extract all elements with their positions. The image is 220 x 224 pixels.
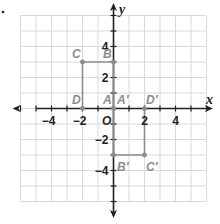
- x-tick-label: 2: [141, 114, 148, 128]
- point-label: A′: [116, 93, 130, 107]
- point-label: C: [72, 47, 81, 61]
- point-label: B′: [117, 160, 130, 174]
- origin-label: O: [102, 114, 112, 128]
- problem-marker-dot: [2, 11, 5, 14]
- figure-image-vertex-point: [111, 106, 116, 111]
- coordinate-plane: yxO−4−22442−2−4ABCDA′B′C′D′: [0, 0, 220, 224]
- figure-original-vertex-point: [111, 60, 116, 65]
- x-tick-label: 4: [172, 114, 179, 128]
- labels: yxO−4−22442−2−4ABCDA′B′C′D′: [2, 2, 213, 178]
- figure-image-vertex-point: [111, 153, 116, 158]
- y-tick-label: −4: [95, 164, 109, 178]
- x-axis-label: x: [205, 92, 213, 107]
- y-tick-label: 2: [102, 71, 109, 85]
- figure-original-vertex-point: [80, 106, 85, 111]
- point-label: C′: [146, 160, 159, 174]
- point-label: B: [103, 47, 112, 61]
- y-axis-label: y: [117, 2, 126, 17]
- figure-image-vertex-point: [142, 153, 147, 158]
- point-label: D′: [146, 93, 159, 107]
- point-label: D: [72, 93, 81, 107]
- x-axis-arrow-left-icon: [13, 105, 21, 112]
- y-tick-label: −2: [95, 133, 109, 147]
- figure-original-vertex-point: [80, 60, 85, 65]
- x-tick-label: −4: [42, 114, 56, 128]
- point-label: A: [102, 93, 112, 107]
- x-tick-label: −2: [73, 114, 87, 128]
